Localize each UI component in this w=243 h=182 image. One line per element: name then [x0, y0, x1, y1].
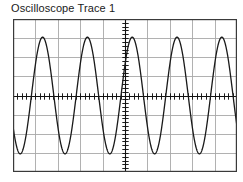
page-title: Oscilloscope Trace 1	[11, 2, 115, 15]
scope-graticule-svg	[13, 19, 237, 172]
oscilloscope-figure: Oscilloscope Trace 1	[0, 0, 243, 182]
oscilloscope-display	[13, 19, 237, 172]
